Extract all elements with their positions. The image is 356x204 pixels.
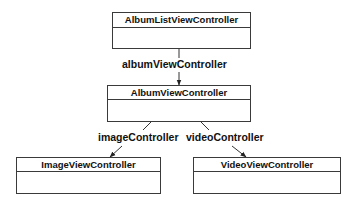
class-name: AlbumViewController	[108, 86, 250, 100]
class-box-video: VideoViewController	[193, 157, 341, 194]
class-box-album: AlbumViewController	[107, 85, 251, 122]
class-name: AlbumListViewController	[113, 13, 250, 28]
edge-label-video: videoController	[186, 131, 264, 143]
edge-label-album: albumViewController	[122, 58, 227, 70]
class-name: ImageViewController	[17, 158, 160, 172]
edge-label-image: imageController	[98, 131, 179, 143]
class-box-image: ImageViewController	[16, 157, 161, 194]
class-box-album-list: AlbumListViewController	[112, 12, 251, 49]
class-name: VideoViewController	[194, 158, 340, 172]
